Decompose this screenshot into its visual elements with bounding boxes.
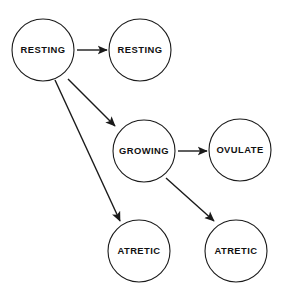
diagram-canvas: RESTINGRESTINGGROWINGOVULATEATRETICATRET…	[0, 0, 283, 293]
node-circle-atretic_right	[205, 220, 267, 282]
node-resting_pool[interactable]: RESTING	[12, 19, 74, 81]
node-circle-growing	[113, 120, 175, 182]
node-atretic_left[interactable]: ATRETIC	[108, 220, 170, 282]
node-circle-atretic_left	[108, 220, 170, 282]
node-layer: RESTINGRESTINGGROWINGOVULATEATRETICATRET…	[12, 19, 271, 282]
edge-resting-to-growing	[68, 79, 115, 126]
node-growing[interactable]: GROWING	[113, 120, 175, 182]
node-circle-resting_stay	[109, 19, 171, 81]
edge-growing-to-atretic	[166, 178, 214, 221]
node-ovulate[interactable]: OVULATE	[209, 119, 271, 181]
node-circle-resting_pool	[12, 19, 74, 81]
node-circle-ovulate	[209, 119, 271, 181]
edge-resting-to-atretic	[55, 80, 120, 221]
node-resting_stay[interactable]: RESTING	[109, 19, 171, 81]
follicle-fate-diagram: RESTINGRESTINGGROWINGOVULATEATRETICATRET…	[0, 0, 283, 293]
node-atretic_right[interactable]: ATRETIC	[205, 220, 267, 282]
